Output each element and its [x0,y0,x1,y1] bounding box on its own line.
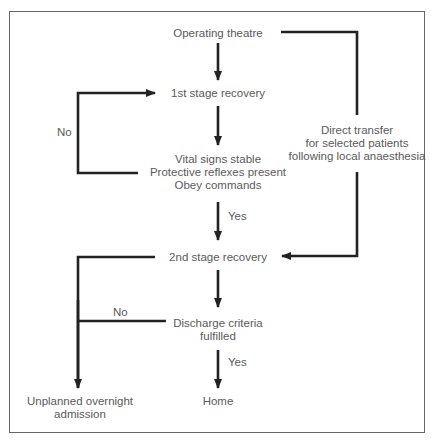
node-unplanned-admission: Unplanned overnight admission [27,395,133,421]
node-direct-transfer: Direct transfer for selected patients fo… [289,124,426,163]
label-no-loop: No [57,126,72,139]
node-home: Home [203,395,234,408]
arrow-no-loop [78,93,155,173]
label-yes-second: Yes [228,210,247,223]
arrow-direct-to-second [282,172,357,256]
node-second-stage-recovery: 2nd stage recovery [169,251,267,264]
node-first-stage-recovery: 1st stage recovery [171,87,265,100]
node-operating-theatre: Operating theatre [173,27,263,40]
line-direct-top [281,32,357,115]
line-left-lower [78,257,155,388]
label-no-admission: No [113,306,128,319]
node-discharge-criteria: Discharge criteria fulfilled [173,317,262,343]
node-recovery-criteria: Vital signs stable Protective reflexes p… [150,153,286,192]
flow-connectors [0,0,434,442]
label-yes-home: Yes [228,356,247,369]
